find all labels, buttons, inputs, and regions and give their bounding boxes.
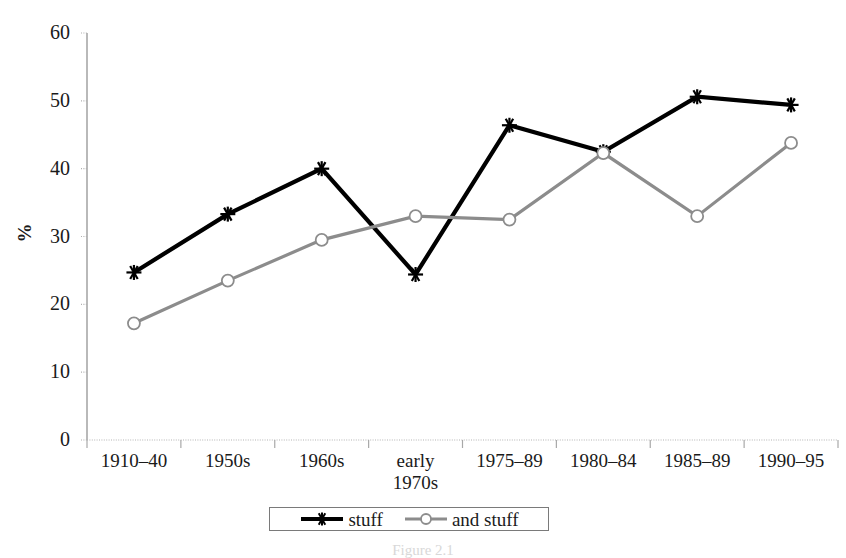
legend-entry[interactable]: stuff — [299, 510, 382, 529]
legend-asterisk-icon — [299, 511, 345, 527]
marker-circle — [785, 137, 797, 149]
series-line — [134, 97, 791, 275]
legend-circle-icon — [403, 511, 449, 527]
marker-circle — [316, 234, 328, 246]
series-line — [134, 143, 791, 323]
legend-label: stuff — [348, 510, 382, 529]
marker-asterisk — [784, 97, 799, 112]
marker-circle — [503, 214, 515, 226]
marker-circle — [128, 317, 140, 329]
marker-circle — [410, 210, 422, 222]
series-stuff — [126, 89, 798, 282]
line-chart: % 6050403020100 1910–401950s1960searly 1… — [0, 0, 846, 558]
figure-caption: Figure 2.1 — [0, 542, 846, 558]
legend-entry[interactable]: and stuff — [403, 510, 519, 529]
legend-label: and stuff — [452, 510, 519, 529]
series-and-stuff — [128, 137, 797, 329]
marker-circle — [597, 147, 609, 159]
marker-circle — [691, 210, 703, 222]
plot-area — [0, 0, 846, 558]
marker-circle — [222, 275, 234, 287]
legend: stuffand stuff — [269, 507, 549, 531]
